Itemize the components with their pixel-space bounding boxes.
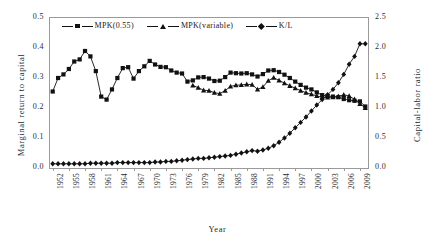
x-tick: 1997 — [298, 173, 307, 189]
legend-line — [246, 26, 257, 27]
legend-marker-diamond-icon — [258, 23, 264, 29]
x-tick: 1961 — [104, 173, 113, 189]
legend-label: MPK(0.55) — [95, 22, 134, 30]
x-tick: 1958 — [88, 173, 97, 189]
legend-line — [168, 26, 179, 27]
y-tick-right: 1.0 — [375, 102, 409, 111]
x-tick: 1976 — [185, 173, 194, 189]
series-diamond — [50, 41, 367, 166]
legend-label: K/L — [279, 22, 293, 30]
x-tick: 1979 — [201, 173, 210, 189]
chart-legend: MPK(0.55)MPK(variable)K/L — [62, 19, 293, 33]
x-tick: 1973 — [169, 173, 178, 189]
legend-line — [147, 26, 158, 27]
x-tick: 1952 — [56, 173, 65, 189]
x-tick: 2003 — [331, 173, 340, 189]
plot-area — [49, 17, 369, 169]
series-canvas — [50, 18, 368, 168]
y-tick-left: 0.2 — [10, 102, 44, 111]
y-tick-left: 0.5 — [10, 12, 44, 21]
y-tick-left: 0.3 — [10, 72, 44, 81]
y-axis-right-title: Capital-labor ratio — [412, 40, 422, 170]
legend-item: MPK(variable) — [147, 22, 233, 30]
x-tick: 1994 — [282, 173, 291, 189]
x-tick: 2006 — [347, 173, 356, 189]
y-tick-right: 0.0 — [375, 162, 409, 171]
legend-item: MPK(0.55) — [62, 22, 134, 30]
x-tick: 2000 — [314, 173, 323, 189]
x-tick: 1982 — [217, 173, 226, 189]
y-tick-right: 2.5 — [375, 12, 409, 21]
legend-label: MPK(variable) — [181, 22, 233, 30]
x-tick: 1967 — [137, 173, 146, 189]
x-tick: 1970 — [153, 173, 162, 189]
legend-marker-square-icon — [75, 24, 80, 29]
legend-line — [62, 26, 73, 27]
x-tick: 2009 — [363, 173, 372, 189]
y-tick-left: 0.1 — [10, 132, 44, 141]
x-tick: 1964 — [120, 173, 129, 189]
y-tick-left: 0.4 — [10, 42, 44, 51]
y-tick-left: 0.0 — [10, 162, 44, 171]
legend-line — [266, 26, 277, 27]
y-tick-right: 0.5 — [375, 132, 409, 141]
legend-line — [82, 26, 93, 27]
x-tick: 1991 — [266, 173, 275, 189]
x-axis-title: Year — [0, 224, 435, 234]
x-tick: 1988 — [250, 173, 259, 189]
x-tick: 1985 — [234, 173, 243, 189]
chart-figure: Marginal return to capital Capital-labor… — [0, 0, 435, 244]
y-tick-right: 1.5 — [375, 72, 409, 81]
legend-item: K/L — [246, 22, 292, 30]
legend-marker-triangle-icon — [160, 24, 166, 29]
x-tick: 1955 — [72, 173, 81, 189]
y-tick-right: 2.0 — [375, 42, 409, 51]
series-triangle — [190, 75, 368, 110]
